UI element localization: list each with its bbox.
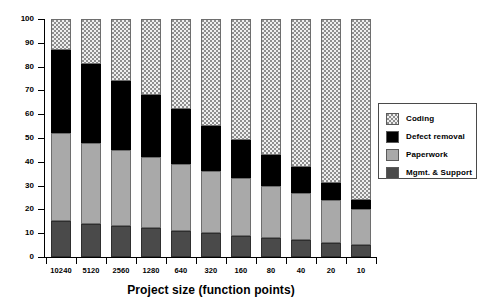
x-axis-tick: [76, 258, 77, 264]
bar-segment-defect-removal: [321, 183, 341, 200]
bar-segment-defect-removal: [201, 126, 221, 171]
bar-320: [201, 19, 221, 257]
legend-swatch-icon: [386, 113, 399, 125]
bar-segment-paperwork: [141, 157, 161, 228]
y-axis-tick-label: 50: [8, 134, 34, 142]
bar-80: [261, 19, 281, 257]
x-axis-line: [44, 257, 377, 258]
bar-segment-defect-removal: [261, 155, 281, 186]
bar-segment-mgmt-support: [111, 226, 131, 257]
y-axis-tick-label: 20: [8, 205, 34, 213]
y-axis-tick-label: 70: [8, 86, 34, 94]
bar-segment-mgmt-support: [51, 221, 71, 257]
bar-segment-defect-removal: [81, 64, 101, 143]
bar-1280: [141, 19, 161, 257]
x-axis-tick: [226, 258, 227, 264]
y-axis-tick: [38, 43, 45, 44]
chart-legend: CodingDefect removalPaperworkMgmt. & Sup…: [378, 103, 477, 179]
bar-segment-coding: [111, 19, 131, 81]
bar-segment-defect-removal: [231, 140, 251, 178]
bar-segment-paperwork: [81, 143, 101, 224]
bar-2560: [111, 19, 131, 257]
y-axis-tick: [38, 162, 45, 163]
bar-segment-mgmt-support: [261, 238, 281, 257]
bar-segment-coding: [351, 19, 371, 200]
y-axis-tick-label: 30: [8, 182, 34, 190]
bar-segment-coding: [291, 19, 311, 167]
bar-segment-paperwork: [201, 171, 221, 233]
y-axis-tick: [38, 186, 45, 187]
bar-segment-coding: [81, 19, 101, 64]
x-axis-tick: [136, 258, 137, 264]
legend-label: Mgmt. & Support: [406, 168, 472, 177]
bar-segment-mgmt-support: [291, 240, 311, 257]
bar-segment-coding: [171, 19, 191, 109]
legend-item-coding: Coding: [386, 112, 434, 125]
bar-segment-defect-removal: [291, 167, 311, 193]
legend-swatch-icon: [386, 167, 399, 179]
y-axis-tick: [38, 138, 45, 139]
bar-160: [231, 19, 251, 257]
bar-segment-mgmt-support: [231, 236, 251, 257]
legend-item-defect-removal: Defect removal: [386, 130, 465, 143]
bar-segment-coding: [261, 19, 281, 155]
bar-segment-defect-removal: [51, 50, 71, 133]
bar-segment-defect-removal: [141, 95, 161, 157]
bar-segment-coding: [141, 19, 161, 95]
y-axis-tick: [38, 233, 45, 234]
x-axis-tick-label: 10: [341, 266, 381, 275]
x-axis-tick: [166, 258, 167, 264]
y-axis-tick: [38, 90, 45, 91]
legend-label: Paperwork: [406, 150, 448, 159]
y-axis-tick-label: 10: [8, 229, 34, 237]
bar-segment-paperwork: [111, 150, 131, 226]
y-axis-tick-label: 100: [8, 15, 34, 23]
bar-segment-mgmt-support: [81, 224, 101, 257]
bar-segment-paperwork: [51, 133, 71, 221]
y-axis-tick-label: 40: [8, 158, 34, 166]
y-axis-tick: [38, 114, 45, 115]
x-axis-title: Project size (function points): [46, 283, 376, 297]
bar-segment-defect-removal: [171, 109, 191, 164]
bar-segment-paperwork: [261, 186, 281, 238]
bar-segment-coding: [51, 19, 71, 50]
bar-segment-mgmt-support: [351, 245, 371, 257]
y-axis-tick: [38, 67, 45, 68]
y-axis-tick-label: 90: [8, 39, 34, 47]
y-axis-tick-label: 60: [8, 110, 34, 118]
y-axis-tick-label: 0: [8, 253, 34, 261]
x-axis-tick: [316, 258, 317, 264]
plot-area: [46, 19, 376, 257]
x-axis-tick: [106, 258, 107, 264]
bar-segment-mgmt-support: [321, 243, 341, 257]
bar-5120: [81, 19, 101, 257]
x-axis-tick: [376, 258, 377, 264]
bar-segment-paperwork: [351, 209, 371, 245]
bar-20: [321, 19, 341, 257]
bar-10: [351, 19, 371, 257]
bar-segment-mgmt-support: [141, 228, 161, 257]
legend-label: Coding: [406, 114, 434, 123]
bar-40: [291, 19, 311, 257]
legend-swatch-icon: [386, 131, 399, 143]
bar-segment-paperwork: [231, 178, 251, 235]
y-axis-tick-label: 80: [8, 63, 34, 71]
y-axis-tick: [38, 19, 45, 20]
bar-segment-mgmt-support: [201, 233, 221, 257]
x-axis-tick: [346, 258, 347, 264]
bar-segment-paperwork: [291, 193, 311, 241]
x-axis-tick: [286, 258, 287, 264]
bar-segment-paperwork: [171, 164, 191, 231]
bar-640: [171, 19, 191, 257]
bar-segment-paperwork: [321, 200, 341, 243]
x-axis-tick: [256, 258, 257, 264]
bar-10240: [51, 19, 71, 257]
bar-segment-defect-removal: [351, 200, 371, 210]
legend-label: Defect removal: [406, 132, 465, 141]
bar-segment-defect-removal: [111, 81, 131, 150]
legend-swatch-icon: [386, 149, 399, 161]
bar-segment-coding: [231, 19, 251, 140]
stacked-bar-chart: 0102030405060708090100 10240512025601280…: [0, 0, 484, 305]
bar-segment-mgmt-support: [171, 231, 191, 257]
x-axis-tick: [196, 258, 197, 264]
